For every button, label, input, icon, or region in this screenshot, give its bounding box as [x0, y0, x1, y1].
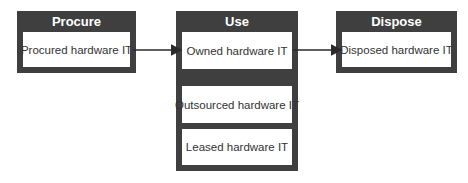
connector-arrows [0, 0, 468, 183]
lifecycle-diagram: Procure Procured hardware IT Use Owned h… [0, 0, 468, 183]
